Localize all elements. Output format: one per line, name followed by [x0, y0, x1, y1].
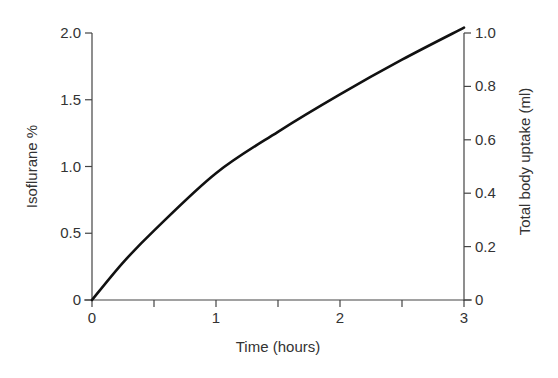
x-axis-title: Time (hours) — [236, 338, 320, 355]
y-tick-label: 0.5 — [60, 224, 81, 241]
y-axis-title: Isoflurane % — [23, 125, 40, 208]
y2-axis-title: Total body uptake (ml) — [516, 88, 533, 236]
axes — [84, 33, 472, 301]
series — [92, 28, 464, 300]
x-tick-label: 1 — [212, 309, 220, 326]
y2-tick-label: 1.0 — [475, 24, 496, 41]
y2-tick-label: 0.6 — [475, 131, 496, 148]
x-tick-label: 0 — [88, 309, 96, 326]
y2-tick-label: 0.8 — [475, 77, 496, 94]
y-tick-label: 2.0 — [60, 24, 81, 41]
ticks: 012300.51.01.52.000.20.40.60.81.0 — [60, 24, 496, 326]
series-line — [92, 28, 464, 300]
x-tick-label: 3 — [460, 309, 468, 326]
y-tick-label: 0 — [73, 291, 81, 308]
x-tick-label: 2 — [336, 309, 344, 326]
y-tick-label: 1.0 — [60, 158, 81, 175]
y-tick-label: 1.5 — [60, 91, 81, 108]
chart: 012300.51.01.52.000.20.40.60.81.0 Time (… — [0, 0, 558, 378]
y2-tick-label: 0.2 — [475, 238, 496, 255]
y2-tick-label: 0.4 — [475, 184, 496, 201]
y2-tick-label: 0 — [475, 291, 483, 308]
